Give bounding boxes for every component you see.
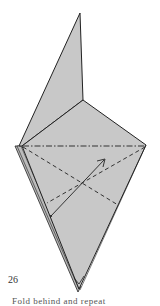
- step-number: 26: [8, 274, 18, 285]
- step-caption: Fold behind and repeat: [12, 296, 106, 306]
